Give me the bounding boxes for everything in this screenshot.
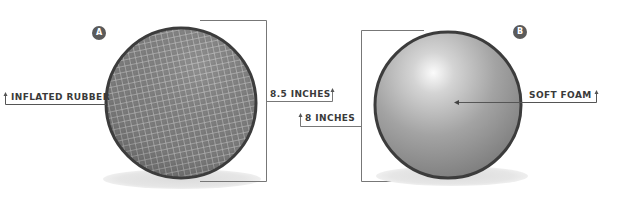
arrow-up-icon: [595, 90, 599, 94]
ball-b: [375, 32, 521, 178]
ball-a: [106, 28, 256, 178]
soft-foam-label: SOFT FOAM: [529, 90, 592, 100]
arrow-up-icon: [331, 88, 335, 92]
ball-comparison-diagram: A B INFLATED RUBBER 8.5 INCHES 8 INCHES …: [0, 0, 631, 199]
inflated-rubber-label: INFLATED RUBBER: [11, 92, 110, 102]
ball-a-diameter-label: 8.5 INCHES: [270, 89, 331, 99]
badge-b: B: [513, 25, 527, 39]
arrow-up-icon: [299, 113, 303, 117]
ball-b-diameter-label: 8 INCHES: [305, 113, 355, 123]
arrow-up-icon: [4, 92, 8, 96]
badge-a: A: [92, 26, 106, 40]
